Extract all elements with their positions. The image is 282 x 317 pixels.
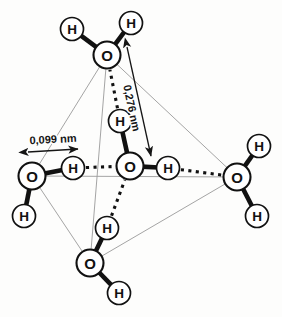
covalent-bond (242, 187, 252, 207)
atom-h-right-up: H (248, 135, 271, 158)
atom-symbol: H (102, 221, 112, 236)
atom-symbol: H (67, 22, 77, 37)
dimension-text: 0,099 nm (29, 132, 77, 146)
atom-h-right-left: H (157, 157, 180, 180)
atom-h-left-right: H (62, 157, 85, 180)
atom-h-right-dn: H (246, 205, 269, 228)
atom-symbol: H (68, 161, 78, 176)
hydrogen-bond (181, 170, 222, 175)
atom-o-center: O (117, 153, 144, 180)
hydrogen-bond (86, 167, 115, 168)
hydrogen-bond (112, 180, 125, 216)
atom-h-center-dn: H (96, 217, 119, 240)
dimension-layer: 0,099 nm0,099 nm0,276 nm0,276 nm (28, 47, 151, 156)
diagram-canvas: OHHOHHOHHOHHHOH 0,099 nm0,099 nm0,276 nm… (0, 0, 282, 317)
covalent-bond (98, 271, 112, 286)
dimension-arrow (28, 149, 78, 152)
atom-symbol: O (101, 47, 113, 64)
atom-symbol: H (254, 139, 264, 154)
covalent-bond (43, 170, 63, 174)
atom-o-right: O (224, 164, 251, 191)
dimension-bond-length: 0,099 nm0,099 nm (28, 132, 78, 152)
atom-h-bottom-rt: H (108, 282, 131, 305)
covalent-bond (80, 35, 98, 48)
atom-symbol: H (114, 286, 124, 301)
atom-symbol: H (252, 209, 262, 224)
tetrahedron-edge (39, 187, 82, 252)
atom-symbol: O (26, 168, 38, 185)
atom-h-top-right: H (120, 12, 143, 35)
atom-symbol: H (115, 114, 125, 129)
hydrogen-bond-diagram: OHHOHHOHHOHHHOH 0,099 nm0,099 nm0,276 nm… (0, 0, 282, 317)
atom-o-left: O (19, 163, 46, 190)
atom-symbol: O (124, 158, 136, 175)
hydrogen-bond-layer (86, 70, 222, 216)
atom-h-top-left: H (61, 18, 84, 41)
atom-o-top: O (94, 42, 121, 69)
atom-symbol: H (126, 16, 136, 31)
atom-o-bottom: O (77, 250, 104, 277)
atom-symbol: O (84, 255, 96, 272)
covalent-bond (122, 130, 127, 155)
atom-layer: OHHOHHOHHOHHHOH (13, 12, 271, 305)
atom-symbol: H (19, 209, 29, 224)
atom-symbol: O (231, 169, 243, 186)
hydrogen-bond (110, 70, 118, 109)
atom-h-left-down: H (13, 205, 36, 228)
atom-symbol: H (163, 161, 173, 176)
